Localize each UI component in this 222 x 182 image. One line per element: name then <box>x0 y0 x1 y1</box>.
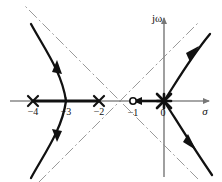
locus-branch-right-upper <box>164 34 210 101</box>
locus-arrow-right-lower <box>183 134 196 150</box>
asymptote-135deg <box>25 6 198 179</box>
tick-label-minus-1: −1 <box>128 107 139 118</box>
zero-marker-minus-1 <box>130 98 136 104</box>
pole-marker-origin-double <box>157 94 171 108</box>
root-locus-canvas: jω σ −4 −3 −2 −1 0 <box>0 0 222 182</box>
tick-label-minus-4: −4 <box>28 106 39 117</box>
tick-label-0: 0 <box>161 107 166 118</box>
locus-arrow-right-upper <box>186 46 199 62</box>
tick-label-minus-3: −3 <box>61 106 72 117</box>
imaginary-axis-label: jω <box>151 12 162 24</box>
root-locus-figure: jω σ −4 −3 −2 −1 0 <box>0 0 222 182</box>
locus-arrow-group <box>52 46 199 150</box>
real-axis-label: σ <box>202 105 208 117</box>
tick-label-minus-2: −2 <box>94 106 105 117</box>
locus-branch-left-upper <box>31 24 66 101</box>
